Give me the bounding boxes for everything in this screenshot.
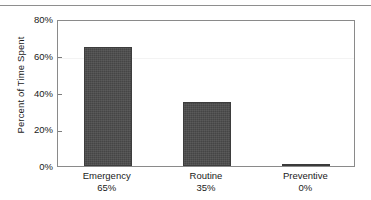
y-axis-title: Percent of Time Spent <box>14 10 28 160</box>
y-axis-tick <box>58 57 62 58</box>
bar <box>183 102 231 166</box>
y-axis-tick <box>58 131 62 132</box>
y-axis-tick-label: 0% <box>5 162 53 172</box>
y-axis-tick <box>58 94 62 95</box>
category-name: Emergency <box>57 170 156 182</box>
category-value: 35% <box>156 182 255 194</box>
category-value: 65% <box>57 182 156 194</box>
y-axis-tick-label: 40% <box>5 89 53 99</box>
bar <box>282 164 330 166</box>
y-axis-tick-label: 20% <box>5 125 53 135</box>
x-axis-category-label: Routine35% <box>156 170 255 194</box>
y-axis-tick-label: 80% <box>5 15 53 25</box>
category-value: 0% <box>256 182 355 194</box>
x-axis-category-label: Preventive0% <box>256 170 355 194</box>
y-axis-tick-label: 60% <box>5 52 53 62</box>
category-name: Preventive <box>256 170 355 182</box>
bar <box>84 47 132 166</box>
plot-area <box>57 20 355 167</box>
bar-chart-figure: Percent of Time Spent 0%20%40%60%80% Eme… <box>0 0 371 200</box>
category-name: Routine <box>156 170 255 182</box>
x-axis-category-label: Emergency65% <box>57 170 156 194</box>
